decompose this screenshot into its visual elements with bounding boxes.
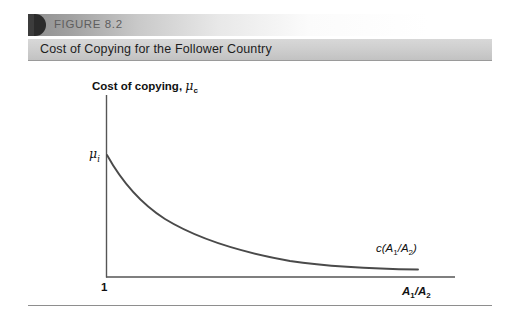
x-axis-tick-1: 1 [101, 281, 107, 293]
figure-panel: FIGURE 8.2 Cost of Copying for the Follo… [0, 0, 516, 321]
x-axis-label-slash: /A [415, 285, 427, 297]
y-axis-label: Cost of copying, μc [92, 78, 198, 95]
cost-of-copying-curve [107, 155, 418, 270]
curve-label-open: c(A [376, 242, 393, 254]
curve-label-close: ) [413, 242, 417, 254]
y-intercept-symbol: μ [89, 146, 97, 161]
curve-label-mid: /A [398, 242, 409, 254]
y-intercept-label: μi [89, 146, 100, 164]
x-axis-label-sub2: 2 [426, 291, 430, 300]
chart-canvas [0, 0, 516, 321]
y-axis-label-subscript: c [193, 86, 197, 95]
x-axis-label: A1/A2 [402, 285, 431, 300]
y-intercept-subscript: i [97, 154, 100, 164]
y-axis-label-text: Cost of copying, [92, 80, 182, 92]
curve-label: c(A1/A2) [376, 242, 417, 257]
bottom-divider [28, 305, 492, 306]
